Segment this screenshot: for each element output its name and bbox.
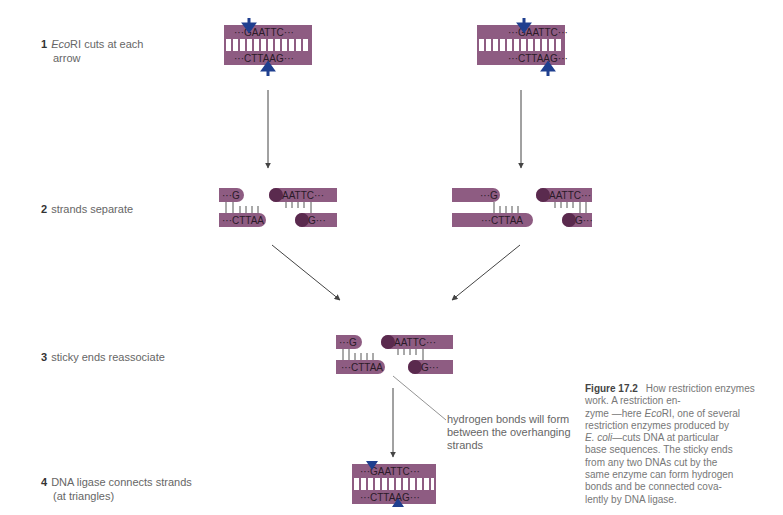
svg-text:···GAATTC···: ···GAATTC··· — [360, 466, 420, 477]
seq-top: ···GAATTC··· — [234, 27, 294, 38]
svg-text:···CTTAAG···: ···CTTAAG··· — [360, 492, 420, 503]
dna-reassociated: ···G ···CTTAA AATTC··· G··· — [336, 335, 453, 374]
step-number: 3 — [41, 351, 47, 363]
arrow-diagonal-icon — [272, 245, 340, 300]
step-number: 4 — [41, 476, 47, 488]
dna-separated-right: ···G ···CTTAA AATTC··· G··· — [452, 188, 593, 227]
hydrogen-bond-annotation: hydrogen bonds will form between the ove… — [447, 413, 607, 452]
step-number: 1 — [41, 38, 47, 50]
dna-separated-left: ···G ···CTTAA AATTC··· G··· — [219, 188, 337, 227]
step-2-label: 2strands separate — [41, 202, 133, 216]
step-number: 2 — [41, 203, 47, 215]
figure-caption: Figure 17.2How restriction enzymes work.… — [585, 383, 780, 506]
dna-intact-right: ···GAATTC··· ···CTTAAG··· — [477, 18, 568, 76]
svg-text:AATTC···: AATTC··· — [549, 190, 591, 201]
svg-text:···G: ···G — [480, 190, 498, 201]
step-4-label: 4DNA ligase connects strands (at triangl… — [41, 475, 192, 503]
svg-text:AATTC···: AATTC··· — [282, 190, 324, 201]
svg-text:···CTTAA: ···CTTAA — [222, 215, 264, 226]
seq-bottom: ···CTTAAG··· — [508, 53, 568, 64]
dna-intact-left: ···GAATTC··· ···CTTAAG··· — [224, 18, 312, 76]
svg-text:G···: G··· — [421, 362, 439, 373]
svg-text:AATTC···: AATTC··· — [394, 337, 436, 348]
figure-label: Figure 17.2 — [585, 383, 638, 394]
step-1-label: 1EcoRI cuts at each arrow — [41, 37, 143, 65]
svg-text:G···: G··· — [308, 215, 326, 226]
svg-text:···G: ···G — [339, 337, 357, 348]
svg-text:···G: ···G — [222, 190, 240, 201]
svg-text:···CTTAA: ···CTTAA — [341, 362, 383, 373]
dna-ligated: ···GAATTC··· ···CTTAAG··· — [352, 461, 436, 507]
svg-text:···CTTAA: ···CTTAA — [481, 215, 523, 226]
arrow-diagonal-icon — [452, 245, 520, 300]
seq-bottom: ···CTTAAG··· — [234, 53, 294, 64]
step-3-label: 3sticky ends reassociate — [41, 350, 165, 364]
annotation-leader-line — [393, 376, 446, 420]
svg-text:G···: G··· — [575, 215, 593, 226]
seq-top: ···GAATTC··· — [508, 27, 568, 38]
